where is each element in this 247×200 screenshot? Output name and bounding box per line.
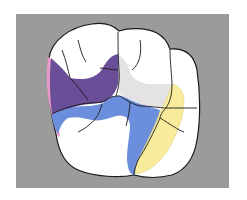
tooth-diagram [0, 0, 247, 200]
